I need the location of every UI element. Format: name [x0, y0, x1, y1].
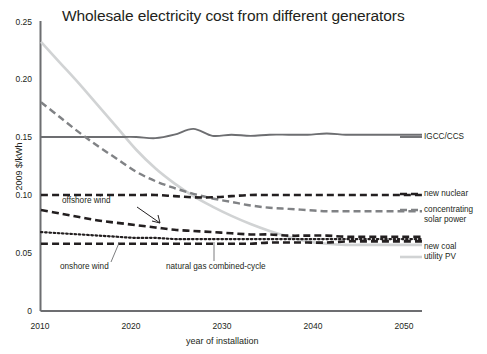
chart-container: Wholesale electricity cost from differen… — [0, 0, 487, 354]
series-line-utility-pv — [41, 42, 422, 245]
offshore-wind-leader — [137, 207, 160, 223]
series-line-igcc-ccs — [41, 129, 422, 138]
plot-area — [0, 0, 487, 354]
series-label-new-nuclear: new nuclear — [424, 190, 468, 198]
series-line-offshore-wind — [41, 210, 422, 237]
annotation-leader-lines — [111, 207, 214, 262]
data-series-group — [41, 42, 422, 257]
annotation-onshore-wind: onshore wind — [60, 263, 109, 271]
series-line-new-coal — [41, 241, 422, 243]
annotation-offshore-wind: offshore wind — [62, 197, 111, 205]
series-label-concentrating-solar-power-1: concentrating — [424, 206, 473, 214]
series-label-new-coal: new coal — [424, 243, 456, 251]
annotation-natural-gas-combined-cycle: natural gas combined-cycle — [166, 263, 266, 271]
series-label-concentrating-solar-power-2: solar power — [424, 216, 466, 224]
series-label-utility-pv: utility PV — [424, 253, 456, 261]
onshore-wind-leader — [111, 243, 119, 262]
series-label-igcc-ccs: IGCC/CCS — [424, 133, 464, 141]
